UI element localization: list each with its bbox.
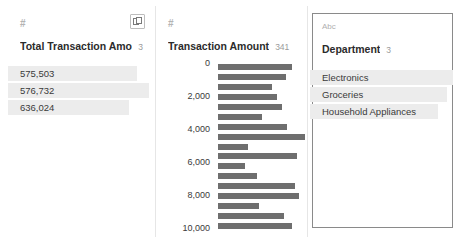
list-item[interactable]: Household Appliances [310,104,459,119]
value-label: 575,503 [8,68,54,79]
histogram-bar [218,223,292,229]
numeric-field-icon: # [20,19,26,29]
list-item[interactable]: 576,732 [8,83,155,98]
histogram-bar [218,163,245,169]
detail-view-icon [133,17,142,26]
value-list: 575,503 576,732 636,024 [8,66,155,115]
histogram-bar [218,124,287,130]
histogram-bar [218,144,248,150]
field-title: Transaction Amount [168,40,269,52]
field-count: 3 [386,45,391,55]
field-card-transaction-amount[interactable]: # Transaction Amount 341 02,0004,0006,00… [156,6,308,237]
field-profile-panel: # Total Transaction Amou... 3 575,503 [0,0,467,243]
list-item[interactable]: Groceries [310,87,459,102]
histogram-bar [218,213,284,219]
field-card-header: # Transaction Amount 341 [156,6,307,52]
histogram-bar [218,104,282,110]
field-card-total-transaction-amount[interactable]: # Total Transaction Amou... 3 575,503 [8,6,156,237]
value-label: Groceries [310,89,363,100]
histogram-chart[interactable]: 02,0004,0006,0008,00010,000 [156,63,307,228]
field-cards-container: # Total Transaction Amou... 3 575,503 [8,6,459,237]
histogram-bar [218,153,297,159]
histogram-bar [218,74,286,80]
histogram-bar [218,193,299,199]
field-title: Department [322,43,380,55]
field-card-header: Abc Department 3 [308,6,459,55]
axis-tick-label: 6,000 [187,157,210,167]
histogram-bar [218,114,262,120]
axis-tick-label: 4,000 [187,124,210,134]
field-type-row: Abc [322,19,447,34]
list-item[interactable]: 575,503 [8,66,155,81]
text-field-icon: Abc [322,23,336,31]
list-item[interactable]: Electronics [310,70,459,85]
axis-tick-label: 10,000 [182,223,210,233]
histogram-bars [218,63,305,228]
field-type-row: # [20,16,143,31]
field-count: 3 [138,42,143,52]
histogram-bar [218,84,272,90]
field-card-department[interactable]: Abc Department 3 Electronics Groceries [308,6,459,237]
field-title-row: Department 3 [322,43,447,55]
value-label: Household Appliances [310,106,416,117]
histogram-bar [218,64,292,70]
value-label: 576,732 [8,85,54,96]
field-title-row: Total Transaction Amou... 3 [20,40,143,52]
list-item[interactable]: 636,024 [8,100,155,115]
field-title: Total Transaction Amou... [20,40,132,52]
value-list: Electronics Groceries Household Applianc… [308,70,459,119]
histogram-bar [218,203,259,209]
axis-tick-label: 0 [205,58,210,68]
axis-tick-label: 8,000 [187,190,210,200]
field-type-row: # [168,16,295,31]
histogram-bar [218,173,257,179]
value-label: 636,024 [8,102,54,113]
field-count: 341 [275,42,289,52]
histogram-bar [218,183,295,189]
histogram-y-axis: 02,0004,0006,0008,00010,000 [168,63,214,228]
detail-view-button[interactable] [130,14,145,29]
value-label: Electronics [310,72,368,83]
numeric-field-icon: # [168,19,174,29]
field-title-row: Transaction Amount 341 [168,40,295,52]
histogram-bar [218,94,277,100]
histogram-bar [218,134,305,140]
axis-tick-label: 2,000 [187,91,210,101]
field-card-header: # Total Transaction Amou... 3 [8,6,155,52]
